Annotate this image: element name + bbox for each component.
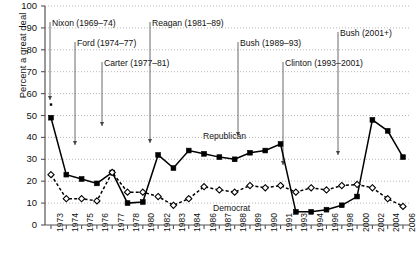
annotation-arrowhead	[236, 132, 240, 136]
annotation-arrowhead	[48, 96, 52, 100]
data-point-democrat-1984	[186, 196, 192, 202]
partial-marker-1973-top	[50, 103, 52, 105]
data-point-democrat-1993	[293, 189, 299, 195]
data-point-democrat-1988	[232, 189, 238, 195]
data-point-republican-1993	[293, 209, 298, 214]
data-point-democrat-2006	[400, 203, 406, 209]
data-point-democrat-1998	[339, 182, 345, 188]
data-point-republican-1987	[217, 155, 222, 160]
data-point-republican-2006	[401, 155, 406, 160]
plot-area	[0, 0, 419, 261]
data-point-republican-2002	[370, 117, 375, 122]
data-point-republican-1980	[140, 200, 145, 205]
data-point-republican-1988	[232, 157, 237, 162]
annotation-arrowhead	[148, 139, 152, 143]
annotation-arrowhead	[73, 141, 77, 145]
data-point-republican-1982	[156, 153, 161, 158]
data-point-republican-1994	[309, 209, 314, 214]
gridlines	[45, 6, 409, 203]
data-point-democrat-1996	[323, 187, 329, 193]
axis-lines	[41, 6, 409, 229]
data-point-democrat-1991	[277, 182, 283, 188]
data-point-democrat-1989	[247, 182, 253, 188]
chart-container: Percent a great deal 0102030405060708090…	[0, 0, 419, 261]
series-line-republican	[51, 118, 403, 212]
data-point-republican-1998	[339, 203, 344, 208]
data-point-republican-1991	[278, 142, 283, 147]
data-point-democrat-1987	[216, 187, 222, 193]
data-point-republican-1984	[186, 148, 191, 153]
data-point-democrat-1990	[262, 185, 268, 191]
data-point-democrat-1982	[155, 193, 161, 199]
data-point-democrat-2002	[369, 185, 375, 191]
data-point-republican-2004	[385, 128, 390, 133]
data-point-republican-1983	[171, 166, 176, 171]
data-point-republican-2000	[355, 194, 360, 199]
data-point-republican-1975	[79, 177, 84, 182]
data-point-republican-1978	[125, 201, 130, 206]
data-point-republican-1973	[49, 115, 54, 120]
annotation-arrowhead	[336, 151, 340, 155]
data-point-republican-1974	[64, 172, 69, 177]
data-point-democrat-1978	[124, 189, 130, 195]
data-point-republican-1990	[263, 148, 268, 153]
annotation-arrowhead	[100, 122, 104, 126]
data-point-republican-1996	[324, 207, 329, 212]
data-point-democrat-1975	[79, 196, 85, 202]
data-point-republican-1989	[248, 150, 253, 155]
data-point-democrat-1974	[63, 196, 69, 202]
data-point-republican-1986	[202, 151, 207, 156]
data-point-republican-1976	[95, 181, 100, 186]
annotation-leader-lines	[48, 22, 340, 165]
data-point-democrat-1994	[308, 185, 314, 191]
